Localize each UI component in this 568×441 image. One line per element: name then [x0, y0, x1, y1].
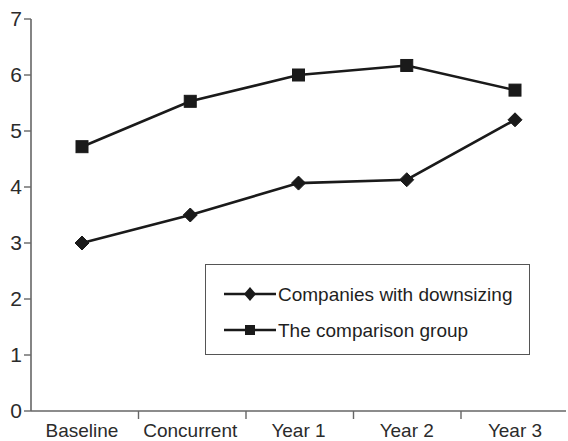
- x-axis-tick-label: Concurrent: [136, 421, 244, 440]
- legend-item-series-0: Companies with downsizing: [206, 279, 529, 309]
- y-axis-tick-label: 4: [0, 176, 22, 197]
- x-axis-tick-label: Baseline: [28, 421, 136, 440]
- y-axis-tick-label: 2: [0, 288, 22, 309]
- series-0: [75, 113, 522, 250]
- legend-label-series-1: The comparison group: [278, 321, 468, 340]
- square-marker-icon: [222, 318, 278, 342]
- y-axis-tick-label: 0: [0, 400, 22, 421]
- data-point-diamond: [508, 113, 522, 127]
- x-axis-ticks: [139, 411, 462, 419]
- chart-legend: Companies with downsizing The comparison…: [205, 264, 530, 355]
- data-point-diamond: [400, 173, 414, 187]
- data-point-square: [76, 141, 88, 153]
- data-point-square: [401, 59, 413, 71]
- y-axis-tick-label: 6: [0, 64, 22, 85]
- diamond-marker-icon: [222, 282, 278, 306]
- y-axis-tick-label: 5: [0, 120, 22, 141]
- y-axis-ticks: [24, 19, 31, 411]
- series-1: [76, 59, 521, 152]
- data-point-square: [509, 84, 521, 96]
- legend-label-series-0: Companies with downsizing: [278, 285, 512, 304]
- data-point-square: [293, 69, 305, 81]
- legend-item-series-1: The comparison group: [206, 315, 529, 345]
- x-axis-tick-label: Year 3: [461, 421, 568, 440]
- data-point-square: [184, 95, 196, 107]
- y-axis-tick-label: 1: [0, 344, 22, 365]
- x-axis-tick-label: Year 2: [353, 421, 461, 440]
- series-group: [75, 59, 522, 250]
- y-axis-tick-label: 3: [0, 232, 22, 253]
- x-axis-tick-label: Year 1: [245, 421, 353, 440]
- data-point-diamond: [183, 208, 197, 222]
- data-point-diamond: [75, 236, 89, 250]
- chart-plot-area: [0, 0, 568, 441]
- y-axis-tick-label: 7: [0, 8, 22, 29]
- line-chart: 76543210 BaselineConcurrentYear 1Year 2Y…: [0, 0, 568, 441]
- data-point-diamond: [292, 176, 306, 190]
